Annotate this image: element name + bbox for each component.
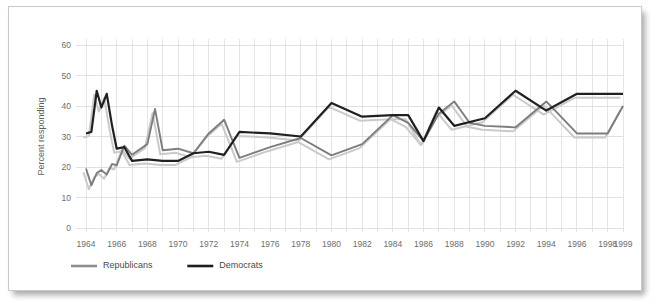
x-tick-label: 1968 — [138, 239, 157, 249]
x-tick-label: 1966 — [107, 239, 126, 249]
y-tick-label: 20 — [62, 162, 72, 172]
x-tick-label: 1980 — [322, 239, 341, 249]
series-dropshadows — [84, 95, 621, 190]
y-tick-label: 40 — [62, 101, 72, 111]
x-tick-label: 1978 — [291, 239, 310, 249]
y-axis-title: Percent responding — [36, 97, 46, 175]
y-axis-tick-labels: 0102030405060 — [62, 40, 72, 233]
line-chart: 0102030405060 19641966196819701972197419… — [9, 7, 643, 292]
x-tick-label: 1990 — [475, 239, 494, 249]
x-tick-label: 1976 — [261, 239, 280, 249]
x-tick-label: 1972 — [199, 239, 218, 249]
horizontal-gridlines — [76, 45, 623, 228]
x-tick-label: 1999 — [614, 239, 633, 249]
x-tick-label: 1982 — [353, 239, 372, 249]
x-tick-label: 1974 — [230, 239, 249, 249]
x-tick-label: 1996 — [568, 239, 587, 249]
chart-legend: RepublicansDemocrats — [71, 260, 263, 270]
legend-label-democrats: Democrats — [219, 260, 263, 270]
y-tick-label: 0 — [66, 223, 71, 233]
y-tick-label: 50 — [62, 71, 72, 81]
series-lines — [86, 91, 623, 186]
x-tick-label: 1970 — [169, 239, 188, 249]
chart-figure-frame: 0102030405060 19641966196819701972197419… — [8, 6, 642, 291]
legend-label-republicans: Republicans — [103, 260, 153, 270]
y-tick-label: 10 — [62, 193, 72, 203]
x-axis-tick-labels: 1964196619681970197219741976197819801982… — [77, 239, 633, 249]
x-tick-label: 1984 — [383, 239, 402, 249]
x-tick-label: 1964 — [77, 239, 96, 249]
y-tick-label: 30 — [62, 132, 72, 142]
y-tick-label: 60 — [62, 40, 72, 50]
x-tick-label: 1992 — [506, 239, 525, 249]
x-tick-label: 1986 — [414, 239, 433, 249]
x-tick-label: 1988 — [445, 239, 464, 249]
vertical-gridlines — [86, 39, 623, 232]
x-tick-label: 1994 — [537, 239, 556, 249]
